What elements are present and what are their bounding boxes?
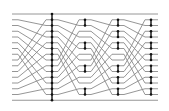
comparator-node: [150, 24, 153, 27]
comparator-node: [51, 82, 54, 85]
wire: [12, 31, 158, 83]
comparator-node: [51, 64, 54, 67]
comparator-node: [117, 30, 120, 33]
comparator-node: [51, 18, 54, 21]
wire: [12, 31, 158, 83]
comparator-node: [84, 18, 87, 21]
comparator-node: [51, 13, 54, 16]
comparator-node: [51, 41, 54, 44]
comparator-node: [84, 47, 87, 50]
comparator-node: [51, 24, 54, 27]
comparator-node: [51, 36, 54, 39]
comparator-node: [51, 30, 54, 33]
comparator-node: [117, 76, 120, 79]
comparator-node: [150, 87, 153, 90]
comparator-node: [117, 82, 120, 85]
comparator-node: [150, 47, 153, 50]
comparator-node: [150, 76, 153, 79]
sorting-network-diagram: [0, 0, 169, 111]
comparator-node: [117, 93, 120, 96]
comparator-node: [150, 30, 153, 33]
comparator-node: [150, 82, 153, 85]
comparator-node: [117, 70, 120, 73]
comparator-node: [117, 47, 120, 50]
comparator-node: [117, 64, 120, 67]
wire: [12, 31, 158, 83]
comparator-node: [150, 36, 153, 39]
comparator-node: [84, 41, 87, 44]
wire: [12, 31, 158, 83]
comparator-node: [150, 18, 153, 21]
comparator-node: [51, 59, 54, 62]
comparator-node: [84, 24, 87, 27]
comparator-node: [117, 36, 120, 39]
comparator-node: [117, 18, 120, 21]
comparator-node: [117, 24, 120, 27]
comparator-node: [117, 41, 120, 44]
comparator-node: [150, 53, 153, 56]
comparator-node: [150, 70, 153, 73]
comparator-node: [150, 93, 153, 96]
comparator-node: [84, 93, 87, 96]
comparator-node: [51, 76, 54, 79]
comparator-node: [51, 47, 54, 50]
comparator-node: [150, 59, 153, 62]
comparator-node: [51, 53, 54, 56]
comparator-node: [51, 70, 54, 73]
comparator-node: [84, 87, 87, 90]
comparator-node: [84, 64, 87, 67]
comparator-node: [84, 70, 87, 73]
comparator-node: [51, 93, 54, 96]
comparator-node: [150, 64, 153, 67]
comparator-node: [117, 87, 120, 90]
comparator-node: [51, 99, 54, 102]
comparator-node: [51, 87, 54, 90]
comparator-node: [150, 41, 153, 44]
wires: [12, 14, 158, 100]
